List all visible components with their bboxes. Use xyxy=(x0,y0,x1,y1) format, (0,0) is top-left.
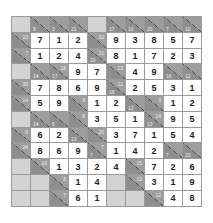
down-clue: 3 xyxy=(52,26,55,32)
entry-cell[interactable]: 2 xyxy=(183,96,202,112)
blocked-cell xyxy=(88,17,107,33)
entry-cell[interactable]: 1 xyxy=(88,191,107,207)
entry-cell[interactable]: 9 xyxy=(50,96,69,112)
entry-cell[interactable]: 3 xyxy=(69,159,88,175)
across-clue: 13 xyxy=(136,176,142,182)
entry-cell[interactable]: 8 xyxy=(183,191,202,207)
entry-cell[interactable]: 4 xyxy=(126,64,145,80)
entry-cell[interactable]: 1 xyxy=(50,33,69,49)
entry-cell[interactable]: 4 xyxy=(88,175,107,191)
entry-cell[interactable]: 5 xyxy=(145,80,164,96)
down-clue: 10 xyxy=(128,26,134,32)
entry-cell[interactable]: 7 xyxy=(145,159,164,175)
entry-cell[interactable]: 9 xyxy=(69,143,88,159)
entry-cell[interactable]: 4 xyxy=(183,128,202,144)
entry-cell[interactable]: 1 xyxy=(107,143,126,159)
down-clue: 14 xyxy=(33,73,39,79)
entry-cell[interactable]: 6 xyxy=(50,143,69,159)
entry-cell[interactable]: 2 xyxy=(69,33,88,49)
across-clue: 10 xyxy=(41,160,47,166)
clue-cell: 15 xyxy=(126,159,145,175)
entry-cell[interactable]: 3 xyxy=(88,112,107,128)
entry-cell[interactable]: 2 xyxy=(50,128,69,144)
entry-cell[interactable]: 6 xyxy=(69,191,88,207)
entry-cell[interactable]: 3 xyxy=(164,80,183,96)
across-clue: 11 xyxy=(118,81,123,87)
entry-cell[interactable]: 7 xyxy=(31,80,50,96)
entry-cell[interactable]: 1 xyxy=(145,128,164,144)
entry-cell[interactable]: 1 xyxy=(31,49,50,65)
entry-cell[interactable]: 1 xyxy=(126,112,145,128)
entry-cell[interactable]: 7 xyxy=(145,49,164,65)
entry-cell[interactable]: 2 xyxy=(50,49,69,65)
blocked-cell xyxy=(12,17,31,33)
clue-cell: 24 xyxy=(12,143,31,159)
entry-cell[interactable]: 9 xyxy=(107,33,126,49)
entry-cell[interactable]: 3 xyxy=(183,49,202,65)
across-clue: 7 xyxy=(25,50,28,56)
clue-cell: 3 xyxy=(145,96,164,112)
entry-cell[interactable]: 6 xyxy=(31,128,50,144)
entry-cell[interactable]: 8 xyxy=(31,143,50,159)
entry-cell[interactable]: 7 xyxy=(183,33,202,49)
entry-cell[interactable]: 1 xyxy=(164,96,183,112)
down-clue: 6 xyxy=(52,121,55,127)
clue-cell: 13 xyxy=(126,175,145,191)
entry-cell[interactable]: 2 xyxy=(107,96,126,112)
entry-cell[interactable]: 9 xyxy=(69,64,88,80)
entry-cell[interactable]: 1 xyxy=(183,80,202,96)
entry-cell[interactable]: 2 xyxy=(126,80,145,96)
entry-cell[interactable]: 2 xyxy=(164,159,183,175)
across-clue: 8 xyxy=(82,113,85,119)
entry-cell[interactable]: 3 xyxy=(126,33,145,49)
entry-cell[interactable]: 8 xyxy=(145,33,164,49)
clue-cell: 14 xyxy=(12,96,31,112)
entry-cell[interactable]: 3 xyxy=(107,128,126,144)
entry-cell[interactable]: 7 xyxy=(31,33,50,49)
entry-cell[interactable]: 9 xyxy=(88,80,107,96)
entry-cell[interactable]: 4 xyxy=(69,49,88,65)
clue-cell: 14 xyxy=(31,112,50,128)
down-clue: 12 xyxy=(185,73,191,79)
entry-cell[interactable]: 6 xyxy=(69,80,88,96)
entry-cell[interactable]: 8 xyxy=(107,49,126,65)
down-clue: 13 xyxy=(71,136,77,142)
entry-cell[interactable]: 8 xyxy=(50,80,69,96)
down-clue: 7 xyxy=(166,26,169,32)
entry-cell[interactable]: 1 xyxy=(126,49,145,65)
clue-cell: 10 xyxy=(126,17,145,33)
entry-cell[interactable]: 1 xyxy=(69,175,88,191)
clue-cell: 1314 xyxy=(145,112,164,128)
entry-cell[interactable]: 4 xyxy=(126,143,145,159)
down-clue: 23 xyxy=(185,152,191,158)
entry-cell[interactable]: 1 xyxy=(50,159,69,175)
entry-cell[interactable]: 9 xyxy=(145,64,164,80)
entry-cell[interactable]: 2 xyxy=(164,49,183,65)
entry-cell[interactable]: 1 xyxy=(164,175,183,191)
entry-cell[interactable]: 5 xyxy=(31,96,50,112)
entry-cell[interactable]: 5 xyxy=(164,128,183,144)
blocked-cell xyxy=(12,175,31,191)
entry-cell[interactable]: 1 xyxy=(88,96,107,112)
entry-cell[interactable]: 9 xyxy=(183,175,202,191)
across-clue: 8 xyxy=(63,176,66,182)
entry-cell[interactable]: 9 xyxy=(164,112,183,128)
across-clue: 14 xyxy=(155,113,161,119)
entry-cell[interactable]: 2 xyxy=(145,143,164,159)
down-clue: 12 xyxy=(128,105,134,111)
entry-cell[interactable]: 6 xyxy=(183,159,202,175)
down-clue: 7 xyxy=(90,152,93,158)
entry-cell[interactable]: 2 xyxy=(88,159,107,175)
entry-cell[interactable]: 7 xyxy=(126,128,145,144)
clue-cell: 32 xyxy=(88,33,107,49)
blocked-cell xyxy=(12,191,31,207)
entry-cell[interactable]: 4 xyxy=(107,159,126,175)
down-clue: 17 xyxy=(52,73,58,79)
entry-cell[interactable]: 4 xyxy=(164,191,183,207)
entry-cell[interactable]: 3 xyxy=(145,175,164,191)
entry-cell[interactable]: 7 xyxy=(88,64,107,80)
blocked-cell xyxy=(107,175,126,191)
entry-cell[interactable]: 5 xyxy=(183,112,202,128)
entry-cell[interactable]: 5 xyxy=(107,112,126,128)
entry-cell[interactable]: 5 xyxy=(164,33,183,49)
